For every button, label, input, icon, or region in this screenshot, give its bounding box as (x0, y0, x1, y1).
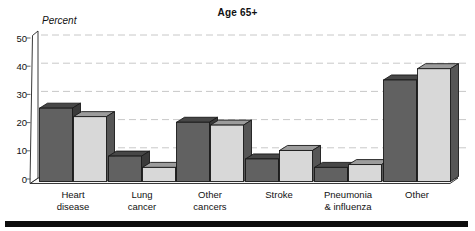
bar-dark-1-front (40, 108, 73, 181)
bar-dark-5-front (315, 167, 348, 181)
bar-dark-6-front (384, 80, 417, 182)
bar-light-1-front (74, 117, 107, 182)
y-tick-label-30: 30 (0, 89, 27, 100)
y-tick-label-0: 0 (0, 174, 27, 185)
category-label-line: Other (372, 189, 462, 201)
bar-light-4-front (280, 150, 313, 181)
bar-light-3-front (211, 125, 244, 181)
bar-light-6-side (451, 64, 459, 182)
category-label-6: Other (372, 189, 462, 201)
chart-figure: Age 65+ Percent 01020304050 Heartdisease… (0, 0, 475, 231)
category-label-line: cancers (165, 201, 255, 213)
bar-dark-2-front (109, 156, 142, 181)
y-tick-label-10: 10 (0, 145, 27, 156)
y-tick-label-50: 50 (0, 33, 27, 44)
bar-light-6-front (418, 69, 451, 182)
bar-light-2-front (143, 167, 176, 181)
bar-dark-4-front (246, 159, 279, 182)
bar-dark-3-front (177, 122, 210, 181)
y-tick-label-20: 20 (0, 117, 27, 128)
bar-light-5-front (349, 165, 382, 182)
y-axis-line (30, 31, 38, 184)
category-label-line: & influenza (303, 201, 393, 213)
bottom-rule (5, 221, 468, 227)
y-tick-label-40: 40 (0, 61, 27, 72)
